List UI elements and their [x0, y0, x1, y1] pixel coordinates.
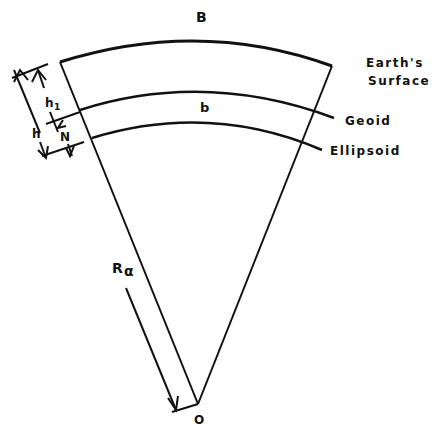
label-h1: h	[45, 96, 54, 110]
label-earths: Earth's	[366, 56, 424, 70]
r-dimension-line-lower	[126, 288, 176, 410]
label-h: h	[32, 127, 41, 141]
earth-surface-arc	[60, 41, 332, 66]
label-R-subscript: α	[124, 263, 134, 279]
label-origin: O	[194, 413, 204, 427]
arrow-up-icon	[58, 120, 66, 128]
label-surface: Surface	[368, 74, 430, 88]
label-N: N	[60, 130, 70, 144]
label-geoid: Geoid	[345, 114, 391, 128]
ellipsoid-arc	[92, 123, 322, 150]
geodesy-diagram: B b Earth's Surface Geoid Ellipsoid h 1 …	[0, 0, 442, 433]
label-h1-subscript: 1	[54, 102, 60, 112]
right-radius-line	[198, 66, 332, 404]
label-ellipsoid: Ellipsoid	[330, 144, 401, 158]
left-radius-line	[60, 62, 198, 404]
label-B: B	[196, 9, 207, 25]
label-R: R	[112, 260, 123, 276]
label-b: b	[200, 100, 209, 115]
